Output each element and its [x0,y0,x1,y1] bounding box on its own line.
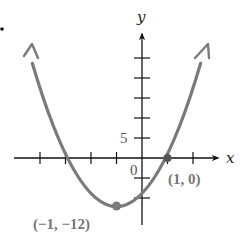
y-axis-label: y [136,8,146,26]
root-label: (1, 0) [168,171,201,188]
origin-label: 0 [130,162,138,178]
left-arrow-icon [24,44,38,58]
y-tick-label-5: 5 [120,130,128,146]
bullet-dot [0,27,4,31]
curve-arrowheads [24,44,209,58]
vertex-label: (−1, −12) [33,216,90,233]
root-point [164,154,172,162]
x-axis-label: x [226,149,235,167]
parabola-graph: x y 5 0 (−1, −12) (1, 0) [0,0,240,244]
vertex-point [112,202,121,211]
right-arrow-icon [195,44,209,58]
